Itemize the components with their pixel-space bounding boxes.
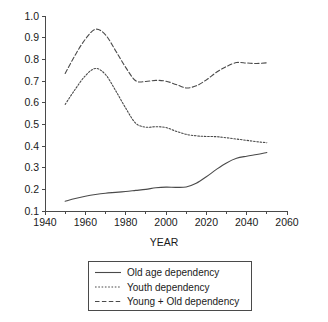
series-line-old-age-dependency	[65, 153, 267, 202]
x-tick-label: 2020	[195, 216, 219, 228]
line-chart: 0.10.20.30.40.50.60.70.80.91.0 194019601…	[0, 0, 328, 322]
y-tick-label: 1.0	[24, 10, 39, 22]
x-tick-label: 1960	[74, 216, 98, 228]
x-tick-label: 2040	[235, 216, 259, 228]
x-tick-marks	[45, 211, 287, 215]
legend-label: Old age dependency	[127, 267, 219, 278]
x-tick-label: 2060	[275, 216, 299, 228]
y-tick-label: 0.8	[24, 53, 39, 65]
y-tick-label: 0.5	[24, 118, 39, 130]
y-tick-labels: 0.10.20.30.40.50.60.70.80.91.0	[24, 10, 39, 217]
legend-label: Young + Old dependency	[127, 296, 239, 307]
series-line-youth-dependency	[65, 68, 267, 142]
x-tick-label: 1940	[33, 216, 57, 228]
legend-label: Youth dependency	[127, 282, 210, 293]
x-tick-label: 1980	[114, 216, 138, 228]
y-tick-label: 0.4	[24, 140, 39, 152]
y-tick-label: 0.6	[24, 96, 39, 108]
chart-figure: 0.10.20.30.40.50.60.70.80.91.0 194019601…	[0, 0, 328, 322]
x-axis-title: YEAR	[150, 236, 179, 248]
y-tick-label: 0.9	[24, 31, 39, 43]
y-tick-label: 0.2	[24, 183, 39, 195]
y-tick-label: 0.7	[24, 75, 39, 87]
y-tick-marks	[42, 16, 46, 211]
series-line-young-old-dependency	[65, 29, 267, 88]
x-tick-labels: 1940196019802000202020402060	[33, 216, 299, 228]
chart-legend: Old age dependencyYouth dependencyYoung …	[88, 261, 251, 310]
y-tick-label: 0.1	[24, 205, 39, 217]
data-series-group	[65, 29, 267, 201]
y-axis: 0.10.20.30.40.50.60.70.80.91.0	[24, 10, 45, 217]
x-axis: 1940196019802000202020402060	[33, 211, 299, 228]
y-tick-label: 0.3	[24, 161, 39, 173]
x-tick-label: 2000	[154, 216, 178, 228]
